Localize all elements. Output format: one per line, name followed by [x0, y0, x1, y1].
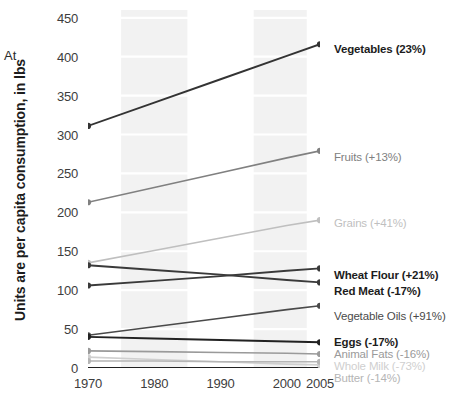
- chart-container: At Units are per capita consumption, in …: [0, 0, 449, 397]
- y-axis-tick-450: 450: [36, 10, 78, 25]
- y-axis-title: Units are per capita consumption, in lbs: [12, 40, 28, 340]
- y-axis-tick-150: 150: [36, 244, 78, 259]
- plot-area: [88, 10, 320, 368]
- y-axis-tick-400: 400: [36, 49, 78, 64]
- series-label-whole-milk: Whole Milk (-73%): [334, 361, 425, 373]
- series-label-grains: Grains (+41%): [334, 218, 407, 230]
- x-axis-tick-1980: 1980: [124, 376, 184, 391]
- x-axis-tick-1990: 1990: [191, 376, 251, 391]
- series-label-vegetable-oils: Vegetable Oils (+91%): [334, 311, 446, 323]
- series-label-vegetables: Vegetables (23%): [334, 44, 426, 56]
- series-label-fruits: Fruits (+13%): [334, 152, 401, 164]
- x-axis-tick-1970: 1970: [58, 376, 118, 391]
- y-axis-tick-300: 300: [36, 127, 78, 142]
- series-label-eggs: Eggs (-17%): [334, 337, 398, 349]
- series-label-butter: Butter (-14%): [334, 373, 400, 385]
- series-label-wheat-flour: Wheat Flour (+21%): [334, 270, 438, 282]
- y-axis-tick-50: 50: [36, 322, 78, 337]
- y-axis-tick-250: 250: [36, 166, 78, 181]
- y-axis-tick-labels: 050100150200250300350400450: [36, 0, 78, 397]
- y-axis-tick-350: 350: [36, 88, 78, 103]
- y-axis-tick-100: 100: [36, 283, 78, 298]
- y-axis-title-wrapper: Units are per capita consumption, in lbs: [0, 0, 28, 397]
- y-axis-tick-200: 200: [36, 205, 78, 220]
- y-axis-tick-0: 0: [36, 361, 78, 376]
- plot-svg: [88, 10, 320, 368]
- series-label-animal-fats: Animal Fats (-16%): [334, 349, 430, 361]
- series-label-red-meat: Red Meat (-17%): [334, 286, 421, 298]
